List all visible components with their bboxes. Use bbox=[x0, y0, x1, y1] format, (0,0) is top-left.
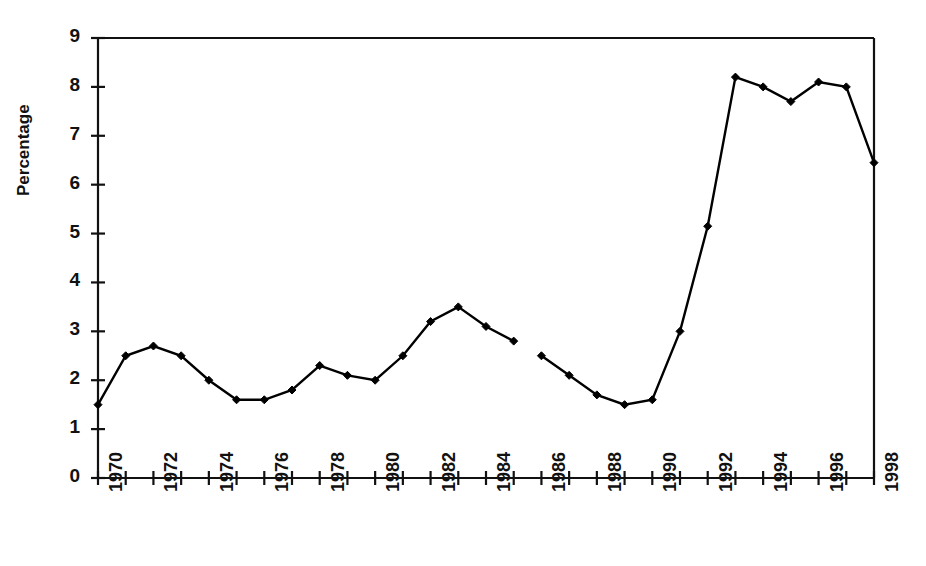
y-tick-label: 6 bbox=[52, 172, 80, 194]
x-tick-label: 1998 bbox=[882, 452, 903, 492]
data-point-marker bbox=[260, 396, 268, 404]
y-tick-label: 0 bbox=[52, 465, 80, 487]
data-point-marker bbox=[704, 222, 712, 230]
x-tick-label: 1984 bbox=[494, 452, 515, 492]
x-tick-label: 1996 bbox=[827, 452, 848, 492]
x-tick-label: 1988 bbox=[605, 452, 626, 492]
x-tick-label: 1986 bbox=[549, 452, 570, 492]
data-point-marker bbox=[676, 327, 684, 335]
data-point-marker bbox=[648, 396, 656, 404]
y-tick-label: 2 bbox=[52, 367, 80, 389]
x-tick-label: 1990 bbox=[660, 452, 681, 492]
x-tick-label: 1994 bbox=[771, 452, 792, 492]
x-tick-label: 1972 bbox=[161, 452, 182, 492]
y-tick-label: 8 bbox=[52, 74, 80, 96]
x-tick-label: 1980 bbox=[383, 452, 404, 492]
data-point-marker bbox=[621, 401, 629, 409]
x-tick-label: 1976 bbox=[272, 452, 293, 492]
x-tick-label: 1982 bbox=[439, 452, 460, 492]
data-point-marker bbox=[343, 371, 351, 379]
x-tick-label: 1978 bbox=[328, 452, 349, 492]
chart-figure: Percentage 01234567891970197219741976197… bbox=[0, 0, 926, 566]
data-line-1986-1998 bbox=[541, 77, 874, 405]
x-tick-label: 1974 bbox=[217, 452, 238, 492]
y-tick-label: 9 bbox=[52, 25, 80, 47]
y-tick-label: 1 bbox=[52, 416, 80, 438]
y-tick-label: 4 bbox=[52, 269, 80, 291]
data-point-marker bbox=[870, 159, 878, 167]
y-tick-label: 7 bbox=[52, 123, 80, 145]
y-tick-label: 5 bbox=[52, 221, 80, 243]
data-point-marker bbox=[842, 83, 850, 91]
x-tick-label: 1992 bbox=[716, 452, 737, 492]
data-point-marker bbox=[731, 73, 739, 81]
data-point-marker bbox=[149, 342, 157, 350]
x-tick-label: 1970 bbox=[106, 452, 127, 492]
y-tick-label: 3 bbox=[52, 318, 80, 340]
data-line-1970-1985 bbox=[98, 307, 514, 405]
